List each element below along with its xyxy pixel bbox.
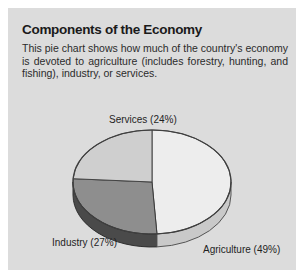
pie-label-agriculture: Agriculture (49%) <box>203 244 280 255</box>
screenshot-root: Components of the Economy This pie chart… <box>0 0 304 277</box>
pie-label-industry: Industry (27%) <box>52 237 117 248</box>
pie-slice-industry <box>73 179 157 234</box>
pie-chart-svg <box>8 8 296 270</box>
content-panel: Components of the Economy This pie chart… <box>8 8 296 270</box>
pie-slice-services <box>73 130 152 182</box>
pie-label-services: Services (24%) <box>109 114 177 125</box>
pie-chart: Services (24%) Industry (27%) Agricultur… <box>8 8 296 270</box>
